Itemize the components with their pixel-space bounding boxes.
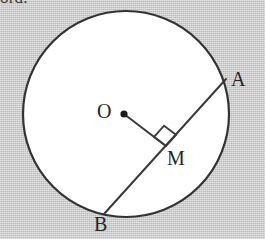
label-center-o: O [97, 101, 111, 121]
label-point-a: A [231, 69, 245, 89]
label-point-b: B [94, 214, 107, 234]
label-point-m: M [167, 148, 185, 168]
center-point-dot [120, 110, 127, 117]
geometry-figure: ord. O A B M [0, 0, 265, 239]
circle-diagram-svg [0, 0, 265, 239]
